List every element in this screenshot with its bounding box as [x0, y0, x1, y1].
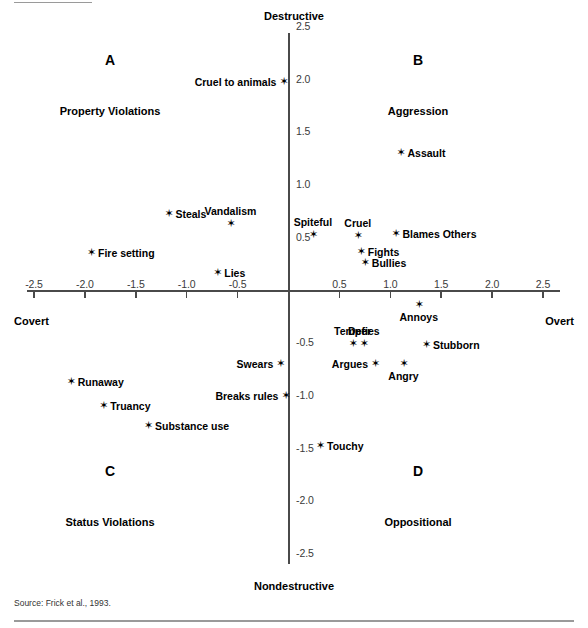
- x-tick-label: 1.0: [370, 278, 410, 290]
- horizontal-axis-line: [27, 290, 560, 292]
- data-point-label: Stubborn: [433, 339, 480, 351]
- x-tick-label: -2.5: [14, 278, 54, 290]
- y-tick-label: -1.0: [296, 389, 314, 401]
- data-point-label: Breaks rules: [215, 390, 278, 402]
- axis-pole-overt: Overt: [545, 315, 574, 327]
- vertical-axis-line: [288, 33, 290, 564]
- axis-pole-covert: Covert: [14, 315, 49, 327]
- scatter-figure: -2.5-2.0-1.5-1.0-0.50.51.01.52.02.52.52.…: [0, 0, 588, 628]
- star-marker-icon: ✶: [415, 300, 423, 310]
- star-marker-icon: ✶: [422, 340, 430, 350]
- data-point-label: Argues: [332, 358, 368, 370]
- data-point-label: Cruel to animals: [195, 76, 277, 88]
- bottom-divider: [14, 620, 574, 622]
- quadrant-name-status-violations: Status Violations: [10, 516, 210, 528]
- star-marker-icon: ✶: [67, 377, 75, 387]
- quadrant-name-oppositional: Oppositional: [318, 516, 518, 528]
- star-marker-icon: ✶: [357, 247, 365, 257]
- y-tick-label: -0.5: [296, 336, 314, 348]
- star-marker-icon: ✶: [276, 359, 284, 369]
- star-marker-icon: ✶: [360, 339, 368, 349]
- star-marker-icon: ✶: [279, 77, 287, 87]
- x-tick-mark: [491, 292, 493, 298]
- data-point-label: Runaway: [78, 376, 124, 388]
- y-tick-label: 1.5: [296, 125, 310, 137]
- star-marker-icon: ✶: [213, 268, 221, 278]
- y-tick-label: 1.0: [296, 178, 310, 190]
- star-marker-icon: ✶: [226, 219, 234, 229]
- x-tick-label: -0.5: [218, 278, 258, 290]
- quadrant-name-aggression: Aggression: [318, 105, 518, 117]
- x-tick-mark: [33, 292, 35, 298]
- data-point-label: Defies: [348, 325, 380, 337]
- data-point-label: Assault: [407, 147, 445, 159]
- x-tick-mark: [237, 292, 239, 298]
- star-marker-icon: ✶: [316, 441, 324, 451]
- y-tick-label: -2.5: [296, 547, 314, 559]
- data-point-label: Bullies: [372, 257, 406, 269]
- x-tick-label: -1.5: [116, 278, 156, 290]
- source-note: Source: Frick et al., 1993.: [14, 598, 111, 608]
- data-point-label: Vandalism: [204, 205, 256, 217]
- star-marker-icon: ✶: [349, 339, 357, 349]
- star-marker-icon: ✶: [144, 421, 152, 431]
- data-point-label: Steals: [175, 208, 206, 220]
- star-marker-icon: ✶: [309, 230, 317, 240]
- x-tick-label: -2.0: [65, 278, 105, 290]
- x-tick-mark: [542, 292, 544, 298]
- star-marker-icon: ✶: [391, 229, 399, 239]
- x-tick-mark: [186, 292, 188, 298]
- y-tick-label: -1.5: [296, 442, 314, 454]
- x-tick-mark: [84, 292, 86, 298]
- data-point-label: Fire setting: [98, 247, 155, 259]
- star-marker-icon: ✶: [400, 359, 408, 369]
- y-tick-label: -2.0: [296, 494, 314, 506]
- axis-pole-nondestructive: Nondestructive: [0, 580, 588, 592]
- data-point-label: Spiteful: [294, 216, 333, 228]
- quadrant-letter-a: A: [90, 52, 130, 68]
- x-tick-mark: [339, 292, 341, 298]
- x-tick-label: 0.5: [319, 278, 359, 290]
- star-marker-icon: ✶: [164, 209, 172, 219]
- data-point-label: Touchy: [327, 440, 364, 452]
- star-marker-icon: ✶: [371, 359, 379, 369]
- data-point-label: Annoys: [400, 311, 439, 323]
- x-tick-label: 2.5: [523, 278, 563, 290]
- data-point-label: Angry: [388, 370, 418, 382]
- x-tick-label: 1.5: [421, 278, 461, 290]
- quadrant-letter-c: C: [90, 463, 130, 479]
- x-tick-label: 2.0: [472, 278, 512, 290]
- quadrant-letter-d: D: [398, 463, 438, 479]
- data-point-label: Substance use: [155, 420, 229, 432]
- data-point-label: Truancy: [110, 400, 150, 412]
- data-point-label: Lies: [224, 267, 245, 279]
- data-point-label: Blames Others: [402, 228, 476, 240]
- quadrant-name-property-violations: Property Violations: [10, 105, 210, 117]
- star-marker-icon: ✶: [99, 401, 107, 411]
- quadrant-letter-b: B: [398, 52, 438, 68]
- star-marker-icon: ✶: [361, 258, 369, 268]
- top-divider: [14, 2, 92, 3]
- x-tick-mark: [440, 292, 442, 298]
- x-tick-mark: [390, 292, 392, 298]
- data-point-label: Swears: [237, 358, 274, 370]
- star-marker-icon: ✶: [87, 248, 95, 258]
- star-marker-icon: ✶: [354, 231, 362, 241]
- star-marker-icon: ✶: [396, 148, 404, 158]
- x-tick-mark: [135, 292, 137, 298]
- x-tick-label: -1.0: [167, 278, 207, 290]
- data-point-label: Fights: [368, 246, 400, 258]
- axis-pole-destructive: Destructive: [0, 10, 588, 22]
- y-tick-label: 2.0: [296, 73, 310, 85]
- star-marker-icon: ✶: [281, 391, 289, 401]
- data-point-label: Cruel: [344, 217, 371, 229]
